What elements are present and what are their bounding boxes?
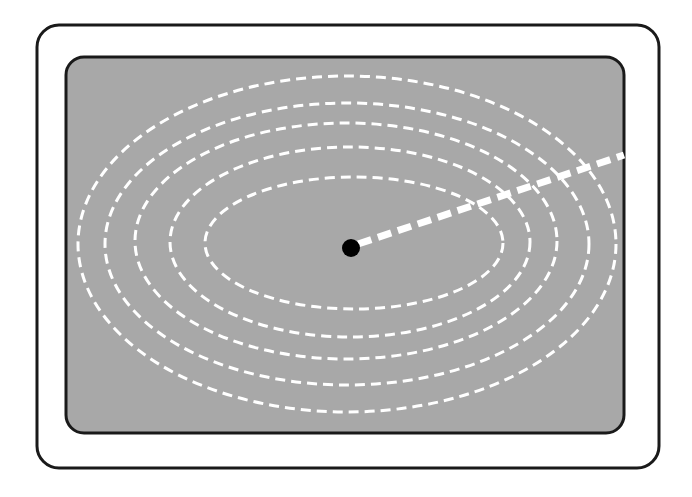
contour-diagram	[0, 0, 692, 497]
center-point	[342, 239, 360, 257]
